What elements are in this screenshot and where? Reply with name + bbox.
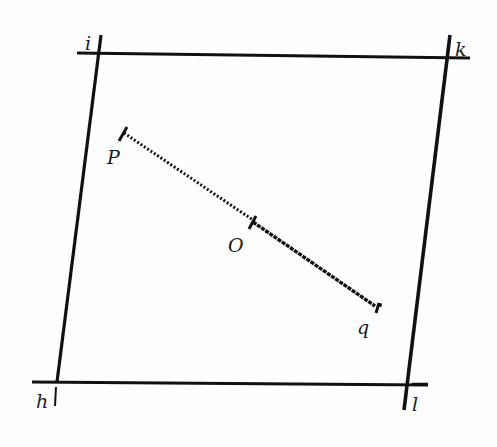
geometry-drawing bbox=[0, 0, 497, 447]
segment-PO bbox=[124, 133, 253, 220]
mark-q-dot bbox=[378, 303, 382, 307]
line-left-ih bbox=[57, 35, 101, 382]
label-l: l bbox=[412, 395, 418, 414]
segment-Oq bbox=[253, 222, 375, 306]
mark-P bbox=[119, 127, 127, 141]
label-q: q bbox=[357, 318, 369, 337]
line-top-ik bbox=[77, 53, 470, 58]
label-k: k bbox=[455, 40, 467, 59]
tick-h bbox=[55, 387, 56, 406]
label-P: P bbox=[107, 148, 120, 167]
line-right-kl bbox=[404, 35, 450, 410]
diagram-canvas: i k h l P O q bbox=[0, 0, 497, 447]
label-h: h bbox=[36, 392, 48, 411]
label-i: i bbox=[85, 34, 91, 53]
line-bottom-hl bbox=[32, 382, 428, 385]
label-O: O bbox=[228, 236, 244, 255]
